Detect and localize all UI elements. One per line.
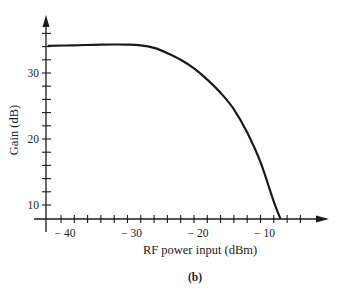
x-tick-label: − 30	[121, 227, 142, 239]
x-axis-label: RF power input (dBm)	[143, 243, 257, 257]
ticks: − 40− 30− 20− 10102030	[28, 33, 301, 239]
y-tick-label: 30	[28, 67, 40, 79]
x-tick-label: − 20	[188, 227, 209, 239]
y-tick-label: 10	[28, 199, 40, 211]
figure-caption: (b)	[188, 271, 202, 284]
y-axis-label: Gain (dB)	[7, 105, 21, 155]
x-axis-arrow-icon	[316, 216, 329, 223]
y-axis-arrow-icon	[43, 15, 50, 27]
y-tick-label: 20	[28, 133, 40, 145]
axes	[34, 15, 329, 232]
x-tick-label: − 40	[55, 227, 76, 239]
x-tick-label: − 10	[254, 227, 275, 239]
gain-vs-rf-power-chart: − 40− 30− 20− 10102030 RF power input (d…	[0, 0, 340, 290]
gain-curve	[48, 45, 281, 219]
